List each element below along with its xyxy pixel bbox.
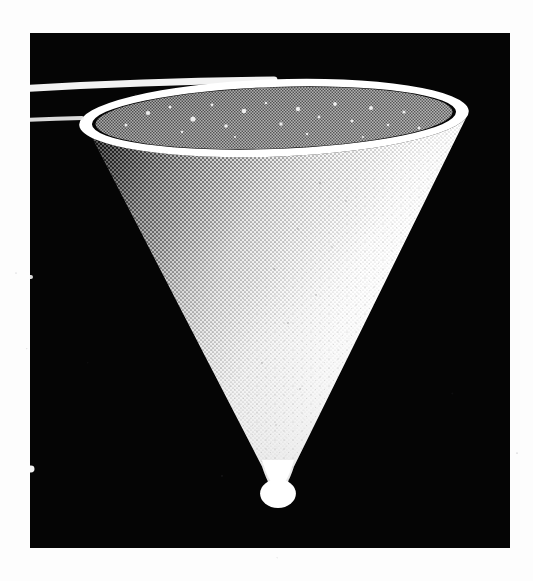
cone-apex	[260, 460, 296, 508]
scanned-page	[0, 0, 533, 581]
cone-render	[30, 33, 510, 548]
figure-panel	[30, 33, 510, 548]
cone-figure	[30, 33, 510, 548]
